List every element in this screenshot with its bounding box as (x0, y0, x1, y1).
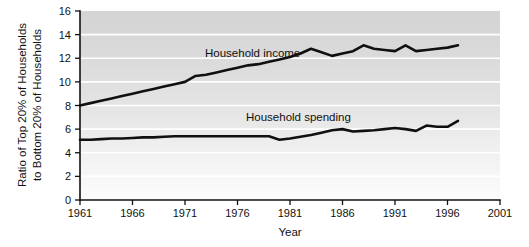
y-axis-title-line-2: to Bottom 20% of Households (31, 29, 43, 181)
series-label-household-spending: Household spending (246, 111, 351, 123)
x-axis-tick-labels: 196119661971197619811986199119962001 (68, 207, 512, 219)
x-tick-label-1961: 1961 (68, 207, 92, 219)
x-tick-label-2001: 2001 (488, 207, 512, 219)
y-tick-label-0: 0 (65, 194, 71, 206)
x-tick-label-1986: 1986 (330, 207, 354, 219)
x-tick-label-1996: 1996 (435, 207, 459, 219)
y-tick-label-6: 6 (65, 123, 71, 135)
x-axis-title: Year (278, 226, 301, 238)
x-tick-label-1981: 1981 (278, 207, 302, 219)
y-axis-tick-labels: 0246810121416 (59, 5, 71, 206)
x-tick-label-1971: 1971 (173, 207, 197, 219)
y-tick-label-8: 8 (65, 100, 71, 112)
x-tick-label-1976: 1976 (225, 207, 249, 219)
y-tick-label-14: 14 (59, 29, 71, 41)
y-tick-label-10: 10 (59, 76, 71, 88)
chart-container: 0246810121416 19611966197119761981198619… (0, 0, 529, 247)
y-tick-label-16: 16 (59, 5, 71, 17)
series-label-household-income: Household income (205, 47, 300, 59)
y-axis-title-line-1: Ratio of Top 20% of Households (16, 23, 28, 187)
y-tick-label-2: 2 (65, 170, 71, 182)
x-tick-label-1991: 1991 (383, 207, 407, 219)
y-tick-label-12: 12 (59, 52, 71, 64)
y-tick-label-4: 4 (65, 147, 71, 159)
x-tick-label-1966: 1966 (120, 207, 144, 219)
ratio-of-household-income-to-spending-line-chart: 0246810121416 19611966197119761981198619… (0, 0, 529, 247)
